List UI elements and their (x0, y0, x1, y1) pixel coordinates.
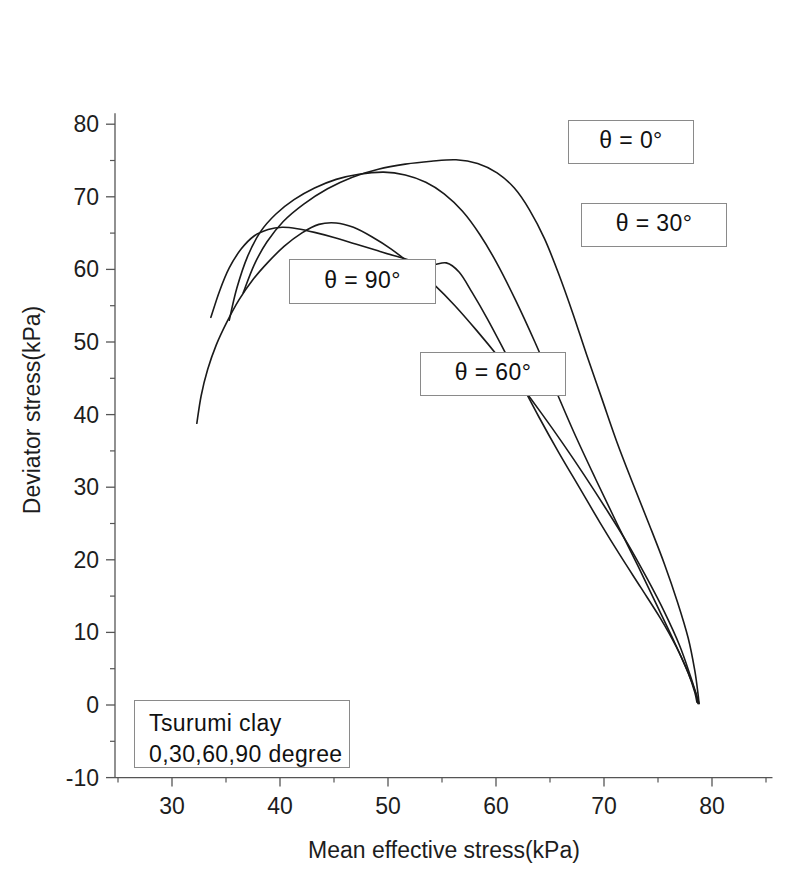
x-tick-label: 70 (591, 793, 617, 819)
caption-line-1: Tsurumi clay (149, 708, 336, 739)
annotation-label: θ = 60° (455, 358, 532, 387)
x-tick-label: 60 (483, 793, 509, 819)
x-tick-label: 30 (159, 793, 185, 819)
annotation-theta-90: θ = 90° (289, 259, 436, 304)
y-tick-label: -10 (66, 765, 99, 791)
x-axis-title: Mean effective stress(kPa) (308, 837, 580, 863)
y-tick-label: 30 (73, 474, 99, 500)
y-tick-label: 50 (73, 329, 99, 355)
annotation-label: θ = 30° (616, 209, 693, 238)
y-tick-label: 80 (73, 111, 99, 137)
series-curve-theta-60 (211, 227, 698, 703)
x-tick-label: 40 (267, 793, 293, 819)
series-curve-theta-0 (229, 172, 697, 702)
x-tick-label: 80 (699, 793, 725, 819)
annotation-theta-0: θ = 0° (568, 120, 694, 164)
caption-line-2: 0,30,60,90 degree (149, 739, 336, 770)
y-tick-label: 40 (73, 402, 99, 428)
caption-sample-caption: Tsurumi clay0,30,60,90 degree (134, 700, 350, 768)
series-curve-theta-90 (197, 223, 699, 704)
annotation-theta-30: θ = 30° (581, 203, 727, 247)
y-tick-label: 0 (86, 692, 99, 718)
chart-figure: 304050607080-1001020304050607080 Mean ef… (0, 0, 811, 882)
y-tick-label: 60 (73, 256, 99, 282)
x-tick-label: 50 (375, 793, 401, 819)
annotation-label: θ = 90° (324, 266, 401, 295)
y-tick-label: 20 (73, 547, 99, 573)
y-axis-title: Deviator stress(kPa) (19, 306, 45, 514)
y-tick-label: 10 (73, 619, 99, 645)
annotation-theta-60: θ = 60° (420, 352, 566, 396)
annotation-label: θ = 0° (599, 126, 662, 155)
y-tick-label: 70 (73, 184, 99, 210)
